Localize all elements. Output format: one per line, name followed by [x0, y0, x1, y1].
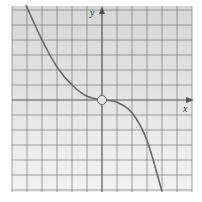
x-axis-label: x — [182, 103, 188, 114]
y-axis-label: y — [89, 7, 95, 18]
open-circle-hole — [98, 96, 107, 105]
graph: y x — [0, 0, 202, 202]
